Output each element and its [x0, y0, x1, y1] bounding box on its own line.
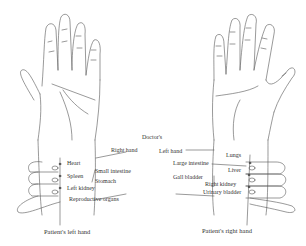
label-spleen: Spleen: [67, 173, 83, 180]
left-panel-caption: Patient's left hand: [44, 228, 90, 235]
label-right-kidney: Right kidney: [205, 181, 236, 188]
label-stomach: Stomach: [95, 178, 116, 185]
label-gall-bladder: Gall bladder: [173, 174, 203, 181]
label-heart: Heart: [67, 160, 80, 167]
label-left-kidney: Left kidney: [67, 185, 95, 192]
doctor-left-hand-label: Left hand: [159, 148, 182, 155]
doctors-label: Doctor's: [142, 134, 162, 141]
label-urinary-bladder: Urinary bladder: [203, 189, 241, 196]
right-panel-caption: Patient's right hand: [202, 227, 252, 234]
patient-left-hand-drawing: [17, 14, 126, 225]
hands-illustration: [0, 0, 306, 246]
label-large-intestine: Large intestine: [173, 160, 209, 167]
doctor-right-hand-label: Right hand: [111, 147, 138, 154]
label-reproductive-organs: Reproductive organs: [69, 196, 119, 203]
pulse-diagnosis-diagram: Doctor's Right hand Heart Small intestin…: [0, 0, 306, 246]
label-lungs: Lungs: [226, 152, 241, 159]
label-small-intestine: Small intestine: [95, 168, 131, 175]
label-liver: Liver: [228, 167, 241, 174]
